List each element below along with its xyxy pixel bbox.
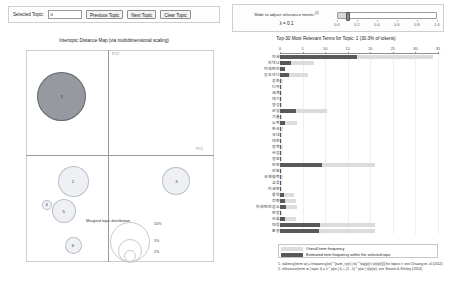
size-legend-circle-10pct xyxy=(110,222,150,262)
bar-axis-tick-label: 35 xyxy=(436,47,440,51)
topic-bubble-label: 2 xyxy=(72,179,74,184)
pc2-axis-label: PC2 xyxy=(112,52,119,56)
bar-topic-frequency xyxy=(280,145,281,150)
selected-topic-label: Selected Topic: xyxy=(13,12,44,17)
slider-title: Slide to adjust relevance metric:(2) xyxy=(239,11,334,17)
term-bar-wrapper xyxy=(280,163,438,168)
bar-topic-frequency xyxy=(280,91,281,96)
term-bar-wrapper xyxy=(280,61,438,66)
bar-topic-frequency xyxy=(280,97,281,102)
slider-title-text: Slide to adjust relevance metric: xyxy=(254,12,315,17)
bar-topic-frequency xyxy=(280,133,281,138)
bar-topic-frequency xyxy=(280,163,322,168)
bar-topic-frequency xyxy=(280,103,281,108)
term-label: 환경 xyxy=(232,228,280,234)
previous-topic-button[interactable]: Previous Topic xyxy=(86,10,123,20)
legend-label-overall: Overall term frequency xyxy=(306,247,344,251)
size-legend-label-5pct: 5% xyxy=(154,239,160,243)
bar-topic-frequency xyxy=(280,181,281,186)
term-bar-wrapper xyxy=(280,145,438,150)
legend-swatch-topic xyxy=(281,253,303,257)
mds-y-axis xyxy=(108,50,109,262)
term-bar-wrapper xyxy=(280,55,438,60)
term-bar-wrapper xyxy=(280,217,438,222)
intertopic-distance-map-panel: Intertopic Distance Map (via multidimens… xyxy=(8,34,220,296)
term-bar-wrapper xyxy=(280,115,438,120)
term-bar-wrapper xyxy=(280,97,438,102)
topic-bubble-4[interactable]: 4 xyxy=(42,200,52,210)
bar-axis-tick-label: 10 xyxy=(323,47,327,51)
bar-axis-tick-label: 30 xyxy=(413,47,417,51)
term-bar-wrapper xyxy=(280,109,438,114)
legend-item-overall: Overall term frequency xyxy=(281,247,344,252)
term-bar-row[interactable]: 환경 xyxy=(228,228,444,234)
term-bar-wrapper xyxy=(280,103,438,108)
bar-axis-tick-label: 5 xyxy=(302,47,304,51)
slider-title-footnote-ref: (2) xyxy=(315,11,319,15)
topic-toolbar: Selected Topic: 0 Previous Topic Next To… xyxy=(8,6,220,23)
bar-topic-frequency xyxy=(280,121,285,126)
bar-topic-frequency xyxy=(280,187,281,192)
pc1-axis-label: PC1 xyxy=(196,147,203,151)
selected-topic-input[interactable]: 0 xyxy=(48,10,82,19)
topic-bubble-label: 4 xyxy=(46,202,48,207)
bar-topic-frequency xyxy=(280,193,284,198)
footnote-relevance: 2. relevance(term w | topic t) = λ * p(w… xyxy=(278,267,450,272)
slider-text-block: Slide to adjust relevance metric:(2) λ =… xyxy=(239,11,334,26)
bar-axis-tick-label: 0 xyxy=(279,47,281,51)
term-bar-rows: 미세지역난미세먼지공부하다강화디자세계대기양성산업기술노력한국국내대한정책사업정… xyxy=(228,54,444,234)
topic-bubble-5[interactable]: 5 xyxy=(52,199,76,223)
bar-topic-frequency xyxy=(280,199,285,204)
term-bar-wrapper xyxy=(280,91,438,96)
bar-topic-frequency xyxy=(280,217,285,222)
bar-topic-frequency xyxy=(280,85,281,90)
topic-bubble-label: 5 xyxy=(62,209,64,214)
bar-topic-frequency xyxy=(280,157,281,162)
term-bar-wrapper xyxy=(280,169,438,174)
bar-topic-frequency xyxy=(280,115,281,120)
slider-tick-label: 0.2 xyxy=(354,23,359,27)
term-bar-wrapper xyxy=(280,151,438,156)
term-bar-wrapper xyxy=(280,127,438,132)
term-bar-wrapper xyxy=(280,139,438,144)
mds-plot-area: PC2 PC1 125643 Marginal topic distributi… xyxy=(26,50,214,262)
bar-topic-frequency xyxy=(280,79,281,84)
relevance-slider-track[interactable] xyxy=(337,12,437,19)
topic-bubble-1[interactable]: 1 xyxy=(37,72,86,121)
term-bar-wrapper xyxy=(280,157,438,162)
slider-tick-label: 0.0 xyxy=(334,23,339,27)
term-bar-wrapper xyxy=(280,199,438,204)
bar-axis-tick-label: 20 xyxy=(368,47,372,51)
legend-swatch-overall xyxy=(281,247,303,251)
clear-topic-button[interactable]: Clear Topic xyxy=(160,10,190,20)
bar-topic-frequency xyxy=(280,151,281,156)
mds-x-axis xyxy=(26,155,214,156)
bar-topic-frequency xyxy=(280,211,281,216)
bar-topic-frequency xyxy=(280,139,281,144)
term-bar-wrapper xyxy=(280,229,438,234)
topic-bubble-label: 6 xyxy=(72,243,74,248)
size-legend-label-10pct: 10% xyxy=(154,222,162,226)
topic-bubble-6[interactable]: 6 xyxy=(65,237,82,254)
term-bar-wrapper xyxy=(280,73,438,78)
top-terms-title: Top-30 Most Relevant Terms for Topic: 1 … xyxy=(228,36,444,41)
bar-topic-frequency xyxy=(280,109,296,114)
term-bar-wrapper xyxy=(280,205,438,210)
bar-topic-frequency xyxy=(280,67,285,72)
term-bar-wrapper xyxy=(280,193,438,198)
bar-chart-legend: Overall term frequency Estimated term fr… xyxy=(278,244,438,258)
topic-bubble-2[interactable]: 2 xyxy=(58,166,89,197)
next-topic-button[interactable]: Next Topic xyxy=(127,10,156,20)
term-bar-wrapper xyxy=(280,175,438,180)
slider-tick-label: 0.8 xyxy=(414,23,419,27)
term-bar-wrapper xyxy=(280,223,438,228)
bar-topic-frequency xyxy=(280,229,319,234)
intertopic-map-title: Intertopic Distance Map (via multidimens… xyxy=(8,38,220,43)
term-bar-wrapper xyxy=(280,133,438,138)
legend-item-topic: Estimated term frequency within the sele… xyxy=(281,253,391,258)
bar-axis-tick-label: 25 xyxy=(391,47,395,51)
bar-chart-x-axis: 05101520253035 xyxy=(280,47,438,54)
ldavis-app: Selected Topic: 0 Previous Topic Next To… xyxy=(0,0,450,302)
term-bar-wrapper xyxy=(280,211,438,216)
term-bar-wrapper xyxy=(280,85,438,90)
